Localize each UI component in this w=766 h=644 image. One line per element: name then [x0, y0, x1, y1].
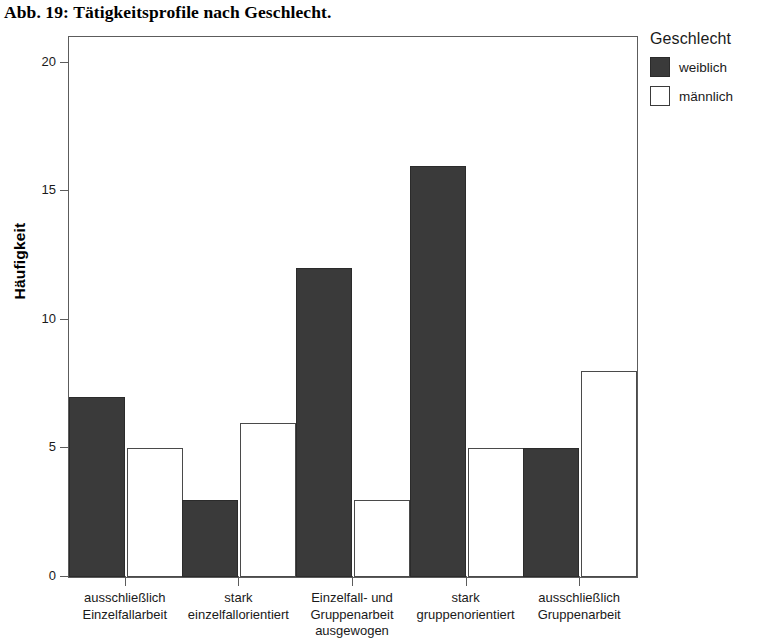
y-axis-label: Häufigkeit	[11, 181, 29, 341]
figure: Abb. 19: Tätigkeitsprofile nach Geschlec…	[0, 0, 766, 644]
y-axis-tick-label: 15	[42, 182, 56, 197]
legend-label-maennlich: männlich	[679, 89, 733, 104]
x-axis-category-label: stark gruppenorientiert	[416, 590, 514, 623]
bar-weiblich-2	[296, 268, 352, 577]
x-axis-tick-mark	[466, 576, 467, 586]
x-axis-category-label: ausschließlich Einzelfallarbeit	[83, 590, 168, 623]
y-axis-tick-mark	[60, 576, 69, 577]
bar-weiblich-4	[523, 448, 579, 577]
y-axis-tick-label: 5	[49, 439, 56, 454]
x-axis-category-label: stark einzelfallorientiert	[188, 590, 289, 623]
bar-weiblich-0	[69, 397, 125, 577]
y-axis-tick-mark	[60, 447, 69, 448]
legend-item-weiblich: weiblich	[650, 57, 766, 77]
bar-weiblich-3	[410, 166, 466, 577]
y-axis-tick-label: 0	[49, 568, 56, 583]
legend-swatch-maennlich	[650, 86, 670, 106]
x-axis-category-label: Einzelfall- und Gruppenarbeit ausgewogen	[310, 590, 393, 640]
x-axis-tick-mark	[125, 576, 126, 586]
bar-männlich-4	[581, 371, 637, 577]
x-axis-tick-mark	[238, 576, 239, 586]
y-axis-tick-mark	[60, 190, 69, 191]
y-axis-tick-mark	[60, 319, 69, 320]
bar-männlich-0	[127, 448, 183, 577]
legend-item-maennlich: männlich	[650, 86, 766, 106]
y-axis-tick-label: 10	[42, 311, 56, 326]
x-axis-category-label: ausschließlich Gruppenarbeit	[538, 590, 621, 623]
legend-label-weiblich: weiblich	[679, 60, 727, 75]
bar-männlich-2	[354, 500, 410, 577]
bar-weiblich-1	[182, 500, 238, 577]
x-axis-tick-mark	[352, 576, 353, 586]
plot-inner	[69, 37, 637, 577]
plot-area: 05101520	[68, 36, 638, 578]
page-title: Abb. 19: Tätigkeitsprofile nach Geschlec…	[4, 2, 331, 23]
legend-swatch-weiblich	[650, 57, 670, 77]
x-axis-tick-mark	[579, 576, 580, 586]
bar-männlich-1	[240, 423, 296, 577]
legend: Geschlecht weiblich männlich	[650, 30, 766, 115]
y-axis-tick-label: 20	[42, 54, 56, 69]
y-axis-tick-mark	[60, 62, 69, 63]
bar-männlich-3	[468, 448, 524, 577]
legend-title: Geschlecht	[650, 30, 766, 48]
